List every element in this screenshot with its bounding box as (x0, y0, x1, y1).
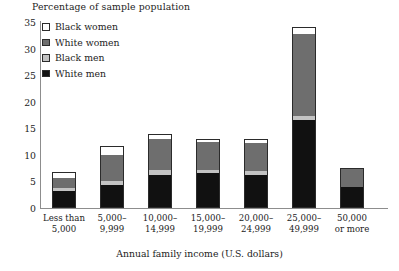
bar-column[interactable] (52, 172, 76, 208)
bar-segment (244, 143, 268, 172)
chart-plot-area: 05101520253035 Black womenWhite womenBla… (0, 0, 399, 271)
bar-segment (340, 187, 364, 208)
bar-segment (52, 191, 76, 208)
bar-segment (100, 146, 124, 155)
bar-segment (340, 168, 364, 187)
bar-segment (52, 178, 76, 188)
x-axis-tick-label-line: 50,000 (323, 213, 381, 224)
bar-segment (292, 120, 316, 208)
bar-segment (148, 175, 172, 208)
bar-column[interactable] (100, 146, 124, 208)
bar-column[interactable] (292, 27, 316, 208)
x-axis-tick-label-line: or more (323, 224, 381, 235)
bar-column[interactable] (148, 134, 172, 208)
x-axis-tick-label: 50,000or more (323, 213, 381, 236)
bar-segment (148, 139, 172, 170)
bar-column[interactable] (340, 168, 364, 208)
bar-column[interactable] (244, 139, 268, 208)
bar-column[interactable] (196, 139, 220, 208)
bar-segment (100, 185, 124, 208)
bar-segment (244, 175, 268, 208)
bar-segment (196, 173, 220, 208)
bar-segment (100, 155, 124, 182)
x-axis-title: Annual family income (U.S. dollars) (0, 248, 399, 259)
bar-segment (292, 34, 316, 116)
bar-segment (196, 142, 220, 171)
